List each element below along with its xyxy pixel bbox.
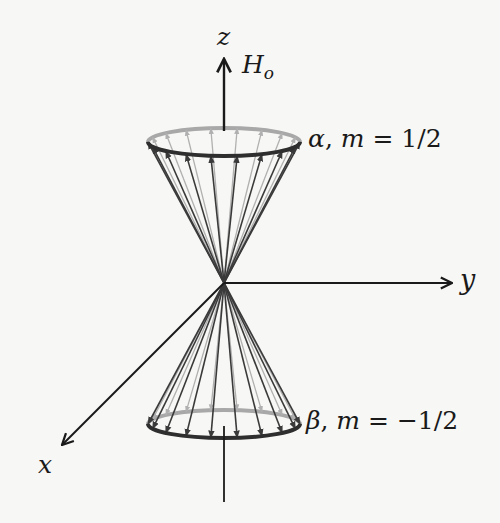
alpha-value: 1/2	[401, 124, 441, 153]
field-label: Ho	[242, 50, 274, 83]
alpha-state-label: α, m = 1/2	[308, 124, 442, 153]
alpha-m: m	[341, 124, 365, 153]
alpha-symbol: α	[308, 124, 325, 153]
spin-vector	[148, 142, 224, 283]
beta-m: m	[336, 406, 360, 435]
alpha-ring-front	[148, 142, 300, 156]
beta-symbol: β	[306, 406, 320, 435]
field-subscript: o	[264, 63, 274, 83]
beta-sep: ,	[320, 406, 336, 435]
spin-vector	[224, 283, 282, 415]
spin-vector	[224, 156, 237, 283]
field-symbol: H	[242, 50, 264, 79]
x-axis-label: x	[38, 450, 52, 479]
spin-vector	[224, 151, 282, 283]
alpha-sep: ,	[325, 124, 341, 153]
spin-vector	[224, 283, 262, 436]
spin-vector	[166, 283, 224, 415]
beta-value: −1/2	[397, 406, 458, 435]
spin-vector	[186, 283, 224, 436]
alpha-eq: =	[365, 124, 402, 153]
y-axis-label: y	[460, 264, 475, 295]
spin-vector	[211, 156, 224, 283]
spin-vector	[224, 147, 295, 283]
beta-eq: =	[360, 406, 397, 435]
z-axis-label: z	[217, 22, 230, 51]
spin-vector	[166, 151, 224, 283]
spin-vector	[148, 283, 224, 424]
spin-vector	[224, 283, 300, 424]
beta-state-label: β, m = −1/2	[306, 406, 458, 435]
